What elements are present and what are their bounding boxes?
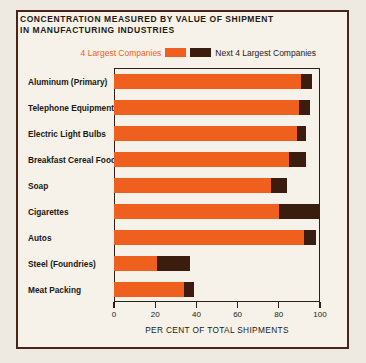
x-axis-tick — [155, 302, 156, 308]
bar-segment-primary — [114, 178, 271, 193]
bar-row — [0, 230, 366, 245]
bar-segment-primary — [114, 100, 299, 115]
x-axis-tick-label: 60 — [233, 310, 242, 319]
x-axis-tick-label: 100 — [313, 310, 326, 319]
bar-segment-secondary — [157, 256, 190, 271]
x-axis-tick-label: 0 — [112, 310, 116, 319]
x-axis-tick — [319, 302, 320, 308]
bar-segment-primary — [114, 74, 301, 89]
bar-segment-secondary — [271, 178, 287, 193]
bar-segment-secondary — [297, 126, 305, 141]
bar-segment-primary — [114, 152, 289, 167]
bar-row — [0, 152, 366, 167]
x-axis-tick-label: 20 — [151, 310, 160, 319]
x-axis-tick — [196, 302, 197, 308]
x-axis-tick — [278, 302, 279, 308]
bar-row — [0, 256, 366, 271]
bar-segment-secondary — [184, 282, 194, 297]
bar-segment-primary — [114, 282, 184, 297]
bar-segment-secondary — [301, 74, 311, 89]
bar-row — [0, 204, 366, 219]
bar-segment-secondary — [279, 204, 320, 219]
x-axis-tick — [237, 302, 238, 308]
bar-segment-secondary — [299, 100, 309, 115]
bar-segment-primary — [114, 230, 304, 245]
bar-segment-primary — [114, 204, 279, 219]
x-axis-tick-label: 80 — [274, 310, 283, 319]
x-axis-tick — [113, 302, 114, 308]
bar-segment-secondary — [289, 152, 305, 167]
bar-row — [0, 282, 366, 297]
x-axis-tick-label: 40 — [192, 310, 201, 319]
bar-row — [0, 126, 366, 141]
x-axis-title: PER CENT OF TOTAL SHIPMENTS — [114, 325, 320, 335]
bar-row — [0, 100, 366, 115]
bar-segment-secondary — [304, 230, 316, 245]
bar-segment-primary — [114, 126, 297, 141]
bar-row — [0, 74, 366, 89]
bar-segment-primary — [114, 256, 157, 271]
bar-row — [0, 178, 366, 193]
